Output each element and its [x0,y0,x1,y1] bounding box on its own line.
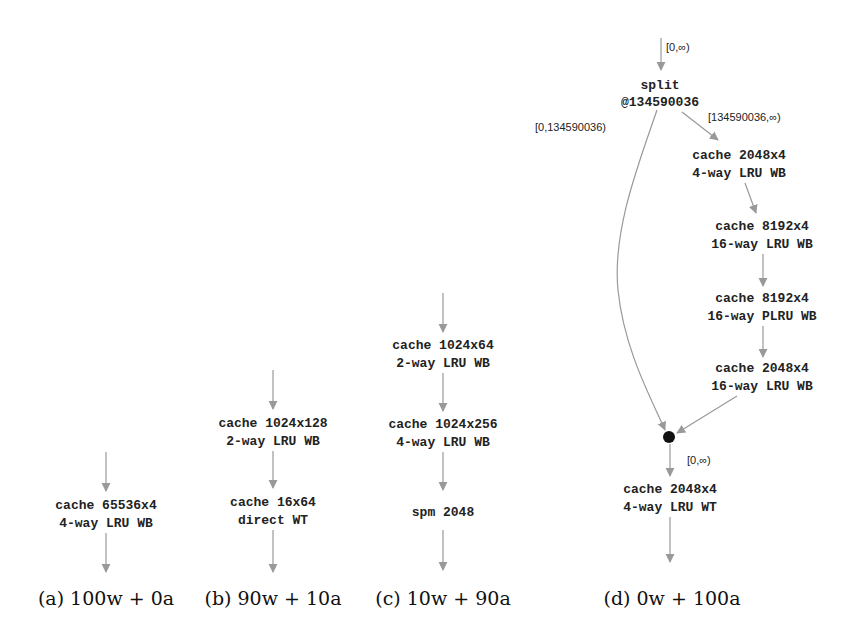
node-label: direct WT [238,513,308,528]
panel-c: cache 1024x64 2-way LRU WB cache 1024x25… [375,293,510,609]
split-node-label: split [640,78,679,93]
node-label: 4-way LRU WB [692,166,786,181]
panel-b: cache 1024x128 2-way LRU WB cache 16x64 … [205,370,342,609]
join-node-dot [663,431,675,443]
node-label: cache 1024x128 [218,416,327,431]
panel-caption: (d) 0w + 100a [604,587,741,609]
edge-label-input: [0,∞) [666,41,690,53]
node-label: cache 8192x4 [715,219,809,234]
node-label: cache 1024x64 [392,338,494,353]
node-label: 16-way LRU WB [711,379,813,394]
panel-a: cache 65536x4 4-way LRU WB (a) 100w + 0a [38,452,174,609]
edge-left-branch [617,110,665,430]
panel-d: [0,∞) split @134590036 [0,134590036) [13… [535,38,817,609]
panel-caption: (c) 10w + 90a [375,587,510,609]
node-label: cache 16x64 [230,495,316,510]
memory-hierarchy-diagram: cache 65536x4 4-way LRU WB (a) 100w + 0a… [0,0,861,644]
node-label: cache 2048x4 [623,482,717,497]
node-label: 2-way LRU WB [226,434,320,449]
node-label: 4-way LRU WB [59,516,153,531]
panel-caption: (b) 90w + 10a [205,587,342,609]
node-label: spm 2048 [412,505,475,520]
node-label: 4-way LRU WT [623,500,717,515]
node-label: 16-way LRU WB [711,237,813,252]
split-node-address: @134590036 [621,95,699,110]
edge-label-left-branch: [0,134590036) [535,121,606,133]
edge-label-right-branch: [134590036,∞) [708,111,781,123]
node-label: 4-way LRU WB [396,435,490,450]
edge-label-after-join: [0,∞) [687,454,711,466]
node-label: 2-way LRU WB [396,356,490,371]
node-label: cache 2048x4 [715,361,809,376]
edge-to-join [677,396,737,433]
node-label: cache 65536x4 [55,498,157,513]
node-label: cache 2048x4 [692,148,786,163]
panel-caption: (a) 100w + 0a [38,587,174,609]
node-label: 16-way PLRU WB [707,309,816,324]
node-label: cache 1024x256 [388,417,497,432]
node-label: cache 8192x4 [715,291,809,306]
edge-arrow [745,183,756,213]
